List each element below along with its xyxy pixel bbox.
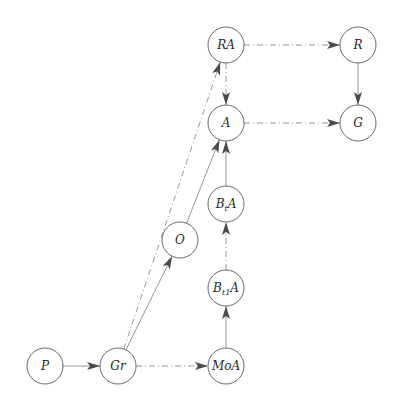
node-label: P	[40, 359, 50, 373]
arrowhead-icon	[327, 41, 340, 49]
node-label: RA	[216, 38, 235, 52]
node-p: P	[27, 348, 63, 384]
edge-p-to-gr	[63, 362, 100, 370]
edge-line	[126, 256, 172, 350]
node-o: O	[162, 222, 198, 258]
edge-gr-to-moa	[136, 362, 208, 370]
arrowhead-icon	[222, 222, 230, 235]
edge-gr-to-ra	[124, 62, 221, 349]
arrowhead-icon	[327, 119, 340, 127]
edge-bt1a-to-bta	[222, 222, 230, 270]
diagram-canvas: RARAGBtAOBt1APGrMoA	[0, 0, 400, 405]
edge-gr-to-o	[126, 256, 172, 350]
edge-a-to-g	[244, 119, 340, 127]
node-label: A	[221, 116, 231, 130]
edge-moa-to-bt1a	[222, 306, 230, 348]
nodes-layer: RARAGBtAOBt1APGrMoA	[27, 27, 376, 384]
arrowhead-icon	[195, 362, 208, 370]
node-label: Gr	[110, 359, 127, 373]
node-bta: BtA	[208, 186, 244, 222]
node-gr: Gr	[100, 348, 136, 384]
node-ra: RA	[208, 27, 244, 63]
node-r: R	[340, 27, 376, 63]
edge-ra-to-r	[244, 41, 340, 49]
edge-r-to-g	[354, 63, 362, 105]
arrowhead-icon	[163, 256, 172, 269]
node-label: G	[353, 116, 363, 130]
node-g: G	[340, 105, 376, 141]
node-moa: MoA	[208, 348, 244, 384]
edge-ra-to-a	[222, 63, 230, 105]
node-bt1a: Bt1A	[208, 270, 244, 306]
node-label: MoA	[211, 359, 241, 373]
edge-line	[124, 62, 221, 349]
edge-bta-to-a	[222, 141, 230, 186]
node-a: A	[208, 105, 244, 141]
node-label: O	[175, 233, 185, 247]
node-label: R	[352, 38, 362, 52]
